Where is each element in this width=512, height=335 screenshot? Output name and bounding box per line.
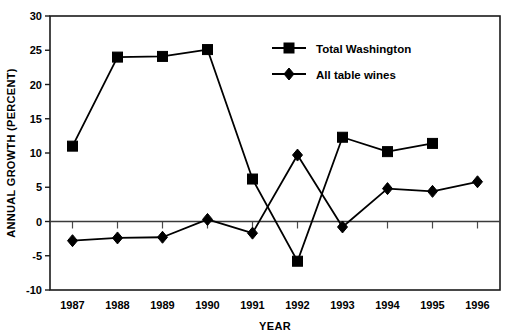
- data-point-square: [293, 256, 303, 266]
- legend-label: Total Washington: [316, 43, 411, 55]
- data-point-square: [383, 147, 393, 157]
- chart-container: -10-5051015202530 1987198819891990199119…: [0, 0, 512, 335]
- data-point-square: [68, 141, 78, 151]
- y-tick-label: 0: [36, 216, 42, 228]
- y-tick-label: 25: [30, 44, 42, 56]
- y-tick-label: 20: [30, 79, 42, 91]
- line-chart: -10-5051015202530 1987198819891990199119…: [0, 0, 512, 335]
- y-tick-label: 5: [36, 181, 42, 193]
- data-point-square: [248, 174, 258, 184]
- legend-marker-square: [284, 43, 294, 53]
- x-tick-label: 1990: [195, 299, 219, 311]
- x-tick-label: 1989: [150, 299, 174, 311]
- y-axis-tick-labels: -10-5051015202530: [26, 10, 42, 296]
- x-tick-label: 1991: [240, 299, 264, 311]
- x-tick-label: 1992: [285, 299, 309, 311]
- x-axis-title: YEAR: [259, 320, 291, 332]
- x-tick-label: 1995: [420, 299, 444, 311]
- legend-label: All table wines: [316, 69, 396, 81]
- x-tick-label: 1994: [375, 299, 400, 311]
- x-tick-label: 1988: [105, 299, 129, 311]
- data-point-square: [113, 52, 123, 62]
- x-tick-label: 1987: [60, 299, 84, 311]
- y-tick-label: 30: [30, 10, 42, 22]
- data-point-square: [203, 45, 213, 55]
- y-tick-label: 10: [30, 147, 42, 159]
- data-point-square: [338, 132, 348, 142]
- x-tick-label: 1996: [465, 299, 489, 311]
- x-axis-tick-labels: 1987198819891990199119921993199419951996: [60, 299, 489, 311]
- y-tick-label: -5: [32, 250, 42, 262]
- y-tick-label: 15: [30, 113, 42, 125]
- data-point-square: [428, 138, 438, 148]
- data-point-square: [158, 51, 168, 61]
- x-tick-label: 1993: [330, 299, 354, 311]
- y-tick-label: -10: [26, 284, 42, 296]
- y-axis-title: ANNUAL GROWTH (PERCENT): [5, 68, 17, 237]
